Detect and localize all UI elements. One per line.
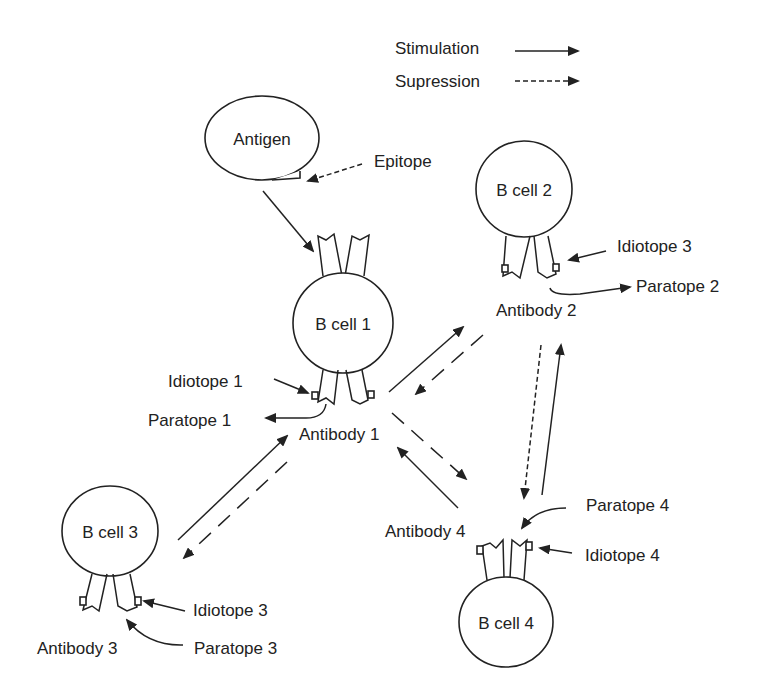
bcell1-antibody-top-left (318, 234, 342, 276)
epitope-label: Epitope (374, 152, 432, 171)
paratope1-pointer-arrow (266, 404, 326, 418)
bcell-2: B cell 2 (476, 141, 572, 278)
paratope1-label: Paratope 1 (148, 411, 231, 430)
paratope2-pointer-arrow (550, 287, 630, 294)
bcell1-label: B cell 1 (315, 315, 371, 334)
antibody1-suppresses-bcell4-arrow (392, 413, 466, 479)
idiotope1-shape (312, 392, 318, 399)
bcell3-stimulates-antibody1-arrow (178, 436, 287, 540)
bcell1-antibody-bottom-right (346, 370, 368, 404)
antibody1-suppresses-bcell3-arrow (184, 462, 287, 558)
idiotope3-pointer-arrow (144, 601, 185, 611)
idiotope4-shape (526, 542, 532, 550)
bcell2-label: B cell 2 (496, 181, 552, 200)
bcell-4: B cell 4 (459, 540, 553, 667)
idiotope2-label: Idiotope 3 (617, 237, 692, 256)
legend-stimulation-label: Stimulation (395, 39, 479, 58)
legend-suppression-label: Supression (395, 72, 480, 91)
antigen-to-bcell1-arrow (263, 191, 313, 251)
antibody1-label: Antibody 1 (299, 425, 379, 444)
bcell4-label: B cell 4 (478, 614, 534, 633)
idiotypic-network-diagram: Stimulation Supression Antigen Epitope B… (0, 0, 779, 694)
bcell3-antibody-right (113, 574, 137, 611)
idiotope1-pointer-arrow (274, 379, 308, 393)
bcell3-label: B cell 3 (82, 523, 138, 542)
bcell4-stimulates-bcell2-arrow (542, 345, 561, 495)
epitope-pointer-arrow (308, 164, 362, 181)
bcell3-idiotope-right (135, 597, 141, 605)
idiotope1-label: Idiotope 1 (168, 372, 243, 391)
idiotope4-label: Idiotope 4 (585, 546, 660, 565)
bcell4-idiotope-left (477, 546, 483, 554)
bcell1-antibody-top-right (345, 235, 369, 276)
antigen: Antigen (205, 96, 319, 180)
paratope4-pointer-arrow (522, 508, 566, 528)
bcell2-idiotope-pointer-arrow (569, 251, 606, 260)
paratope2-label: Paratope 2 (636, 277, 719, 296)
antibody4-label: Antibody 4 (385, 522, 465, 541)
paratope4-label: Paratope 4 (586, 496, 669, 515)
bcell4-antibody-right (510, 540, 527, 580)
antigen-label: Antigen (233, 130, 291, 149)
idiotope3-label: Idiotope 3 (193, 601, 268, 620)
antibody4-stimulates-antibody1-arrow (398, 448, 458, 508)
bcell1-antibody-bottom-left (318, 370, 338, 404)
idiotope4-pointer-arrow (540, 548, 572, 553)
antibody2-label: Antibody 2 (496, 301, 576, 320)
bcell1-idiotope-right (368, 391, 374, 398)
bcell2-suppresses-bcell4-arrow (524, 345, 541, 498)
bcell4-antibody-left (482, 540, 504, 580)
bcell3-idiotope-left (80, 597, 86, 605)
antibody3-label: Antibody 3 (37, 639, 117, 658)
bcell2-suppresses-antibody1-arrow (416, 335, 483, 394)
paratope3-pointer-arrow (127, 620, 183, 645)
antibody1-stimulates-bcell2-arrow (389, 327, 463, 392)
bcell-3: B cell 3 (62, 486, 158, 611)
bcell-1: B cell 1 (293, 234, 393, 404)
bcell2-idiotope-left (502, 265, 508, 272)
legend: Stimulation Supression (395, 39, 578, 91)
paratope3-label: Paratope 3 (194, 639, 277, 658)
bcell2-idiotope-right (553, 264, 559, 271)
